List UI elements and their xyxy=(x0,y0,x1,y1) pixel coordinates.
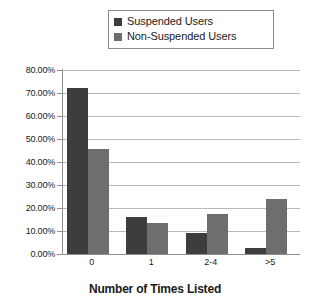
x-axis-line xyxy=(62,254,300,255)
legend-label-suspended-users: Suspended Users xyxy=(127,16,213,27)
bar-chart: Suspended Users Non-Suspended Users 80.0… xyxy=(0,0,310,308)
y-axis-tick-label: 40.00% xyxy=(26,158,55,167)
legend-item-non-suspended-users: Non-Suspended Users xyxy=(114,29,268,44)
bar[interactable] xyxy=(67,88,88,254)
legend-label-non-suspended-users: Non-Suspended Users xyxy=(127,31,236,42)
y-axis-tick-label: 70.00% xyxy=(26,89,55,98)
x-axis-tick-label: 2-4 xyxy=(181,258,241,267)
y-axis-tick-label: 20.00% xyxy=(26,204,55,213)
y-axis-labels: 80.00%70.00%60.00%50.00%40.00%30.00%20.0… xyxy=(0,0,55,308)
bar-group xyxy=(126,70,168,254)
legend-swatch-icon-non-suspended-users xyxy=(114,33,122,41)
x-axis-tick-label: 1 xyxy=(122,258,182,267)
bar[interactable] xyxy=(186,233,207,254)
y-axis-tick-label: 80.00% xyxy=(26,66,55,75)
y-axis-tick-label: 10.00% xyxy=(26,227,55,236)
y-axis-line xyxy=(62,69,63,255)
bar[interactable] xyxy=(266,199,287,254)
plot-area xyxy=(62,70,300,254)
y-axis-tick-label: 30.00% xyxy=(26,181,55,190)
y-axis-tick-label: 0.00% xyxy=(30,250,55,259)
bar[interactable] xyxy=(147,223,168,254)
x-axis-title: Number of Times Listed xyxy=(0,282,310,296)
bar[interactable] xyxy=(207,214,228,254)
y-axis-tick-label: 50.00% xyxy=(26,135,55,144)
legend-swatch-icon-suspended-users xyxy=(114,18,122,26)
chart-legend: Suspended Users Non-Suspended Users xyxy=(108,10,274,49)
bar[interactable] xyxy=(88,149,109,254)
bar-group xyxy=(245,70,287,254)
x-axis-tick-label: >5 xyxy=(241,258,301,267)
x-axis-tick-label: 0 xyxy=(62,258,122,267)
y-axis-tick-label: 60.00% xyxy=(26,112,55,121)
legend-item-suspended-users: Suspended Users xyxy=(114,14,268,29)
bar[interactable] xyxy=(126,217,147,254)
bar-group xyxy=(186,70,228,254)
bar-group xyxy=(67,70,109,254)
